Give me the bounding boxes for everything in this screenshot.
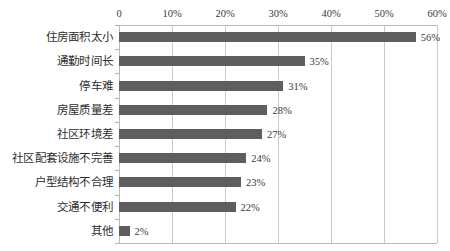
bar-value-label-7: 22% bbox=[241, 203, 260, 213]
bar-0 bbox=[119, 32, 416, 42]
category-label-3: 房屋质量差 bbox=[0, 104, 113, 116]
x-tick-label-2: 20% bbox=[215, 8, 234, 20]
plot-bottom-axis-line bbox=[119, 243, 437, 244]
bar-value-label-2: 31% bbox=[288, 82, 307, 92]
bar-3 bbox=[119, 105, 267, 115]
gridline-6 bbox=[437, 25, 438, 243]
x-tick-label-5: 50% bbox=[374, 8, 393, 20]
bar-value-label-4: 27% bbox=[267, 130, 286, 140]
bar-7 bbox=[119, 202, 236, 212]
gridline-4 bbox=[331, 25, 332, 243]
category-label-8: 其他 bbox=[0, 225, 113, 237]
bar-value-label-0: 56% bbox=[421, 33, 440, 43]
bar-value-label-5: 24% bbox=[251, 154, 270, 164]
x-tick-label-6: 60% bbox=[427, 8, 446, 20]
x-tick-label-0: 0 bbox=[116, 8, 121, 20]
plot-area: 56%35%31%28%27%24%23%22%2% bbox=[119, 25, 437, 243]
bar-value-label-1: 35% bbox=[310, 57, 329, 67]
category-label-1: 通勤时间长 bbox=[0, 55, 113, 67]
bar-1 bbox=[119, 56, 305, 66]
y-tick-mark-9 bbox=[115, 243, 119, 244]
category-label-7: 交通不便利 bbox=[0, 201, 113, 213]
bar-5 bbox=[119, 153, 246, 163]
category-label-5: 社区配套设施不完善 bbox=[0, 152, 113, 164]
bar-2 bbox=[119, 81, 283, 91]
gridline-5 bbox=[384, 25, 385, 243]
bar-value-label-8: 2% bbox=[135, 227, 149, 237]
x-tick-label-1: 10% bbox=[162, 8, 181, 20]
bar-8 bbox=[119, 226, 130, 236]
category-label-0: 住房面积太小 bbox=[0, 31, 113, 43]
bar-value-label-6: 23% bbox=[246, 178, 265, 188]
bar-chart: 010%20%30%40%50%60% 住房面积太小通勤时间长停车难房屋质量差社… bbox=[0, 0, 450, 251]
category-label-4: 社区环境差 bbox=[0, 128, 113, 140]
category-label-2: 停车难 bbox=[0, 80, 113, 92]
bar-4 bbox=[119, 129, 262, 139]
x-tick-label-3: 30% bbox=[268, 8, 287, 20]
bar-6 bbox=[119, 177, 241, 187]
category-labels: 住房面积太小通勤时间长停车难房屋质量差社区环境差社区配套设施不完善户型结构不合理… bbox=[0, 25, 113, 243]
category-label-6: 户型结构不合理 bbox=[0, 176, 113, 188]
bar-value-label-3: 28% bbox=[272, 106, 291, 116]
x-tick-label-4: 40% bbox=[321, 8, 340, 20]
